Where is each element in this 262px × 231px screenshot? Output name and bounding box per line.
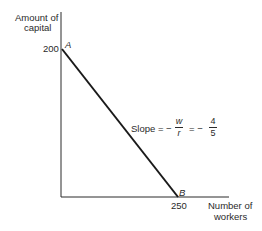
x-axis-label-line1: Number of: [208, 200, 252, 211]
y-axis-label-line2: capital: [24, 22, 51, 33]
frac-numerator-4: 4: [210, 117, 215, 126]
x-tick-250: 250: [171, 200, 187, 211]
fraction-4-over-5: 4 5: [209, 117, 217, 138]
frac-numerator-w: w: [176, 117, 183, 126]
point-a-label: A: [65, 39, 71, 50]
x-axis-label-line2: workers: [214, 211, 247, 222]
point-b-label: B: [179, 187, 185, 198]
slope-prefix: Slope = −: [131, 123, 172, 134]
y-tick-200: 200: [43, 43, 59, 54]
slope-equals: = −: [189, 123, 203, 134]
fraction-w-over-r: w r: [175, 117, 183, 138]
frac-denominator-r: r: [178, 129, 181, 138]
frac-denominator-5: 5: [210, 129, 215, 138]
chart-canvas: [0, 0, 262, 231]
